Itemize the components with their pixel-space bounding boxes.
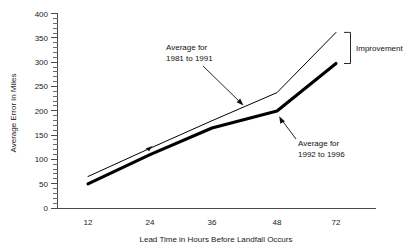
axes-group: [58, 13, 377, 209]
annotation-1981-1991-line1: Average for: [166, 43, 208, 52]
y-tick-label: 50: [39, 180, 48, 189]
y-axis-title: Average Error in Miles: [9, 74, 18, 153]
improvement-label: Improvement: [356, 44, 403, 53]
annotation-1992-1996-line2: 1992 to 1996: [298, 150, 345, 159]
x-tick-label: 12: [84, 218, 93, 227]
y-tick-label: 250: [35, 82, 49, 91]
improvement-bracket-group: Improvement: [344, 32, 403, 63]
line-chart: 400 350 300 250 200 150 100 50 0 12 24 3…: [0, 0, 419, 249]
annotation-1981-1991-leader: [203, 66, 241, 103]
x-tick-label: 48: [273, 218, 282, 227]
x-tick-label: 36: [208, 218, 217, 227]
x-tick-label: 72: [332, 218, 341, 227]
y-tick-label: 0: [44, 204, 49, 213]
x-tick-label: 24: [146, 218, 155, 227]
annotation-1992-1996: Average for 1992 to 1996: [279, 116, 345, 159]
y-tick-label: 150: [35, 131, 49, 140]
annotation-1981-1991: Average for 1981 to 1991: [166, 43, 244, 106]
y-axis-tick-labels: 400 350 300 250 200 150 100 50 0: [35, 10, 49, 214]
x-axis-title: Lead Time in Hours Before Landfall Occur…: [140, 235, 293, 244]
y-tick-label: 200: [35, 107, 49, 116]
x-axis-tick-labels: 12 24 36 48 72: [84, 218, 341, 227]
improvement-bracket: [344, 32, 351, 63]
chart-screenshot: 400 350 300 250 200 150 100 50 0 12 24 3…: [0, 0, 419, 249]
annotation-1992-1996-line1: Average for: [298, 139, 340, 148]
annotation-1981-1991-line2: 1981 to 1991: [166, 54, 213, 63]
y-tick-label: 400: [35, 10, 49, 19]
y-tick-label: 300: [35, 58, 49, 67]
y-tick-label: 100: [35, 155, 49, 164]
series-1981-1991-pointer-arrowhead: [146, 146, 153, 151]
y-tick-label: 350: [35, 34, 49, 43]
series-line-1992-1996: [88, 64, 336, 184]
